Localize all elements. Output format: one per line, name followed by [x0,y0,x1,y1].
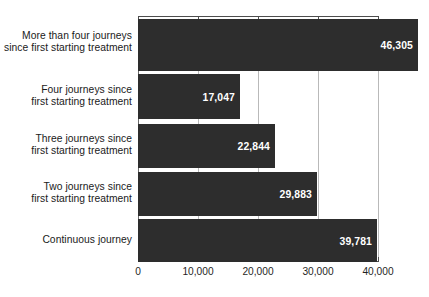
bar-four-journeys: 17,047 [138,74,240,119]
xtick-label-10000: 10,000 [182,266,213,277]
category-label-four-journeys: Four journeys since first starting treat… [0,84,132,109]
xtick-label-30000: 30,000 [302,266,333,277]
bar-value-label: 22,844 [238,141,270,152]
category-label-line1: Two journeys since [0,181,132,193]
category-label-line1: Three journeys since [0,133,132,145]
category-label-line1: More than four journeys [0,30,132,42]
category-label-line1: Four journeys since [0,84,132,96]
bar-value-label: 46,305 [381,40,413,51]
bar-more-than-four-journeys: 46,305 [138,19,418,71]
category-label-line1: Continuous journey [0,234,132,246]
bar-value-label: 39,781 [340,235,372,246]
category-label-more-than-four-journeys: More than four journeys since first star… [0,30,132,55]
bar-three-journeys: 22,844 [138,124,275,168]
category-label-two-journeys: Two journeys since first starting treatm… [0,181,132,206]
bottom-tick-40000 [378,257,379,262]
category-label-line2: first starting treatment [0,96,132,108]
category-label-continuous-journey: Continuous journey [0,234,132,246]
xtick-label-20000: 20,000 [242,266,273,277]
bar-two-journeys: 29,883 [138,172,317,216]
category-label-line2: since first starting treatment [0,42,132,54]
xtick-label-0: 0 [135,266,141,277]
category-label-three-journeys: Three journeys since first starting trea… [0,133,132,158]
category-label-line2: first starting treatment [0,193,132,205]
category-label-line2: first starting treatment [0,145,132,157]
horizontal-bar-chart: 46,305 17,047 22,844 29,883 39,781 More … [0,0,429,297]
bar-value-label: 29,883 [280,189,312,200]
xtick-label-40000: 40,000 [362,266,393,277]
bar-continuous-journey: 39,781 [138,219,377,262]
bar-value-label: 17,047 [203,91,235,102]
